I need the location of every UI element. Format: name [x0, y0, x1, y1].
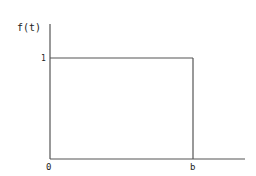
- x-tick-zero: 0: [46, 162, 51, 172]
- pulse-chart: f(t) 1 0 b: [0, 0, 256, 176]
- x-tick-b: b: [190, 162, 195, 172]
- y-tick-one: 1: [41, 54, 46, 63]
- y-axis-label: f(t): [17, 22, 41, 33]
